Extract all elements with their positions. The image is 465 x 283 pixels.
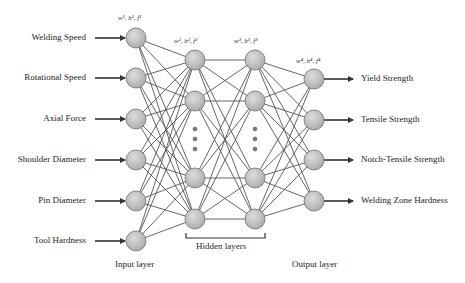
ellipsis-dot-icon	[193, 147, 197, 151]
hidden1-neuron	[185, 50, 205, 70]
ellipsis-dot-icon	[253, 127, 257, 131]
weight-label-layer3: w³, b³, f³	[234, 37, 257, 45]
hidden2-neuron	[245, 209, 265, 229]
output-neuron	[304, 150, 324, 170]
hidden-layers-label: Hidden layers	[196, 241, 246, 251]
ellipsis-dot-icon	[193, 137, 197, 141]
output-neuron	[304, 69, 324, 89]
input-label: Shoulder Diameter	[6, 154, 86, 164]
edge-input-hidden1	[136, 178, 195, 241]
input-label: Tool Hardness	[6, 235, 86, 245]
input-label: Pin Diameter	[6, 195, 86, 205]
input-neuron	[126, 28, 146, 48]
weight-label-layer2: w², b², f²	[174, 37, 197, 45]
output-label: Tensile Strength	[361, 114, 420, 124]
hidden1-neuron	[185, 209, 205, 229]
output-layer-label: Output layer	[292, 259, 337, 269]
output-label: Notch-Tensile Strength	[361, 154, 445, 164]
weight-label-layer1: w¹, b¹, f¹	[118, 14, 141, 22]
output-label: Welding Zone Hardness	[361, 195, 448, 205]
hidden2-neuron	[245, 50, 265, 70]
input-layer-label: Input layer	[115, 259, 154, 269]
input-neuron	[126, 109, 146, 129]
input-neuron	[126, 68, 146, 88]
ellipsis-dot-icon	[253, 137, 257, 141]
input-neuron	[126, 231, 146, 251]
ellipsis-dot-icon	[193, 127, 197, 131]
ellipsis-dot-icon	[253, 147, 257, 151]
output-label: Yield Strength	[361, 73, 413, 83]
input-label: Rotational Speed	[6, 72, 86, 82]
input-label: Axial Force	[6, 113, 86, 123]
hidden1-neuron	[185, 91, 205, 111]
output-neuron	[304, 191, 324, 211]
weight-label-layer4: w⁴, b⁴, f⁴	[296, 57, 320, 65]
output-neuron	[304, 110, 324, 130]
hidden2-neuron	[245, 168, 265, 188]
input-label: Welding Speed	[6, 32, 86, 42]
input-neuron	[126, 150, 146, 170]
edge-input-hidden1	[136, 38, 195, 101]
hidden1-neuron	[185, 168, 205, 188]
input-neuron	[126, 191, 146, 211]
hidden2-neuron	[245, 91, 265, 111]
connection-lines	[136, 38, 314, 241]
hidden-layers-bracket	[186, 233, 265, 238]
